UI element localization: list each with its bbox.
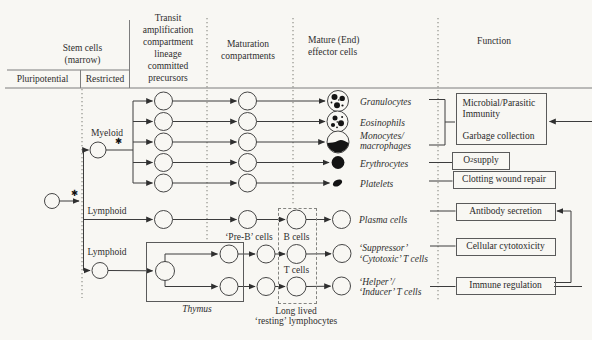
t-cells-label: T cells: [278, 264, 315, 276]
lymphoid-t-branch-label: Lymphoid: [84, 246, 130, 258]
pre-b-cells-label: ‘Pre-B’ cells: [220, 231, 278, 243]
self-renewal-asterisk: ✱: [71, 189, 78, 197]
granulocyte-cell-icon: [328, 91, 349, 112]
long-lived-lymphocytes-box: [278, 208, 317, 304]
erythrocytes-label: Erythrocytes: [360, 158, 408, 170]
column-header-maturation: Maturationcompartments: [206, 38, 290, 62]
lymphoid-b-branch-label: Lymphoid: [84, 205, 130, 217]
thymus-label: Thymus: [166, 303, 228, 315]
cytotoxic-t-cell-node: [333, 245, 351, 263]
plasma-cells-label: Plasma cells: [359, 214, 407, 226]
pluripotential-stem-cell-node: [45, 194, 60, 209]
resting-lymphocytes-label: ‘resting’ lymphocytes: [243, 315, 349, 327]
eosinophil-cell-icon: [327, 111, 348, 132]
column-header-mature: Mature (End)effector cells: [308, 34, 392, 58]
garbage-collection-label: Garbage collection: [463, 131, 540, 143]
monocytes-label: Monocytes/macrophages: [360, 132, 411, 152]
helper-t-cells-label: ‘Helper’/‘Inducer’ T cells: [359, 277, 421, 298]
function-box-cellular: Cellular cytotoxicity: [456, 238, 556, 256]
monocyte-cell-icon: [327, 131, 349, 153]
thymus-box: [146, 242, 244, 302]
function-box-o2-supply: O2 supply: [452, 152, 510, 170]
bracket: [429, 100, 445, 146]
suppressor-t-cells-label: ‘Suppressor’‘Cytotoxic’ T cells: [359, 243, 428, 264]
erythrocyte-cell-icon: [332, 156, 345, 169]
myeloid-stem-cell-node: [90, 142, 106, 158]
lymphoid-stem-cell-node: [92, 263, 108, 279]
column-header-transit: Transitamplification compartmentlineage …: [126, 12, 210, 84]
platelet-cell-icon: [332, 178, 344, 188]
granulocytes-label: Granulocytes: [360, 96, 411, 108]
b-cells-label: B cells: [278, 231, 315, 243]
column-header-function: Function: [454, 35, 534, 47]
header-pluripotential: Pluripotential: [6, 73, 79, 85]
platelets-label: Platelets: [360, 178, 393, 190]
feedback-line: [554, 211, 571, 283]
amplification-asterisk: ✱: [115, 137, 122, 145]
header-restricted: Restricted: [81, 73, 129, 85]
column-header-stem-cells: Stem cells (marrow): [40, 42, 125, 66]
eosinophils-label: Eosinophils: [360, 117, 405, 129]
function-box-immune: Immune regulation: [456, 277, 556, 295]
helper-t-cell-node: [333, 277, 351, 295]
function-box-clotting: Clotting wound repair: [453, 171, 556, 189]
plasma-cell-node: [333, 211, 351, 229]
hematopoiesis-diagram: Stem cells (marrow) Transitamplification…: [0, 0, 592, 340]
function-box-antibody: Antibody secretion: [456, 203, 556, 221]
function-box-microbial: Microbial/Parasitic Immunity Garbage col…: [456, 93, 547, 145]
